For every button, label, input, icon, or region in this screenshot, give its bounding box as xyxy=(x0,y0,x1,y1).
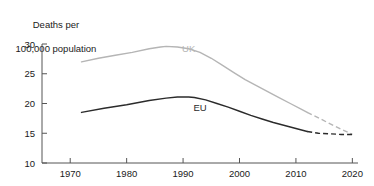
series-label-uk: UK xyxy=(182,43,196,54)
series-line-dashed-uk xyxy=(307,112,352,134)
line-chart-plot: 1015202530197019801990200020102020UKEU xyxy=(0,0,374,186)
x-axis-tick-label: 2020 xyxy=(342,168,363,179)
y-axis-tick-label: 15 xyxy=(24,128,35,139)
x-axis-tick-label: 1970 xyxy=(60,168,81,179)
series-label-eu: EU xyxy=(193,102,206,113)
x-axis-tick-label: 2010 xyxy=(285,168,306,179)
chart-container: Deaths per 100,000 population 1015202530… xyxy=(0,0,374,186)
y-axis-tick-label: 20 xyxy=(24,98,35,109)
y-axis-tick-label: 30 xyxy=(24,39,35,50)
y-axis-tick-label: 10 xyxy=(24,158,35,169)
x-axis-tick-label: 1980 xyxy=(116,168,137,179)
x-axis-tick-label: 1990 xyxy=(173,168,194,179)
x-axis-tick-label: 2000 xyxy=(229,168,250,179)
y-axis-tick-label: 25 xyxy=(24,68,35,79)
